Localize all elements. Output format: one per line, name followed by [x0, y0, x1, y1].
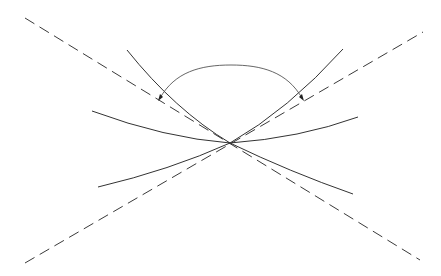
dashed-line-descending [25, 18, 420, 260]
diagram-canvas [0, 0, 441, 276]
flat-curve-upper-right [230, 117, 358, 143]
angle-arc [160, 65, 302, 98]
flat-curve-upper-left [92, 111, 230, 143]
steep-curve-left [127, 50, 230, 143]
dashed-line-ascending [25, 32, 423, 263]
flat-curve-lower-right [230, 143, 353, 194]
flat-curve-lower-left [98, 143, 230, 187]
steep-curve-right [230, 49, 343, 143]
